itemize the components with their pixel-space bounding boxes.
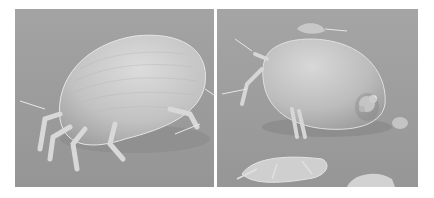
sem-image-left-panel: [15, 9, 214, 187]
sem-image-right-panel: [217, 9, 418, 187]
dust-mite-side-view-image: [15, 9, 214, 187]
dust-mite-rear-view-image: [217, 9, 418, 187]
